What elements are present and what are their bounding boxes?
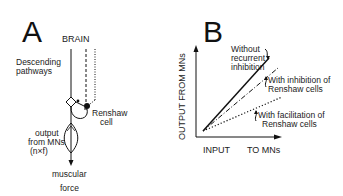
pointer-facilitation-head	[254, 110, 258, 114]
curve-with-facilitation-of-renshaw	[203, 97, 282, 131]
y-axis-arrowhead	[194, 45, 199, 52]
x-axis-arrowhead	[274, 135, 282, 140]
motoneuron-soma	[66, 97, 76, 107]
pointer-without-head	[266, 56, 270, 60]
renshaw-cell-body	[84, 103, 90, 109]
diagram-graphics	[0, 0, 343, 196]
force-arrowhead	[69, 160, 74, 166]
renshaw-collateral	[76, 102, 84, 106]
dotted-to-renshaw	[90, 100, 95, 104]
curve-without-recurrent-inhibition	[203, 58, 269, 131]
